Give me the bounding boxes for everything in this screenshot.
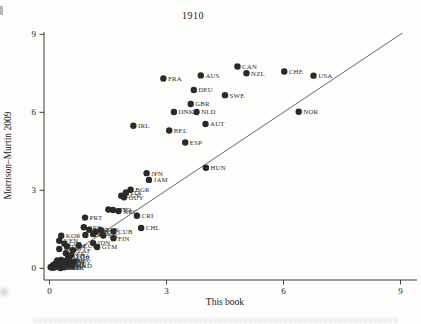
data-point-bel	[166, 127, 172, 133]
data-point-nld	[193, 109, 199, 115]
data-point-bra	[56, 246, 62, 252]
x-axis-label: This book	[125, 297, 325, 307]
y-tick-label: 0	[32, 263, 37, 273]
data-point-jpn	[143, 170, 149, 176]
point-label-nor: NOR	[303, 108, 318, 115]
x-tick-label: 9	[398, 286, 403, 296]
data-point-tto	[110, 207, 116, 213]
point-label-nzl: NZL	[251, 70, 265, 77]
point-label-cri: CRI	[141, 212, 153, 219]
point-label-gbr: GBR	[195, 100, 210, 107]
point-label-hun: HUN	[210, 164, 225, 171]
data-point-swe	[222, 92, 228, 98]
point-label-guy: GUY	[129, 194, 144, 201]
data-point-can	[234, 63, 240, 69]
data-point-guy	[121, 194, 127, 200]
data-point-khm	[57, 265, 63, 271]
x-tick-label: 0	[47, 286, 52, 296]
scan-artifact	[0, 288, 8, 296]
point-label-esp: ESP	[190, 139, 202, 146]
data-point-sen	[49, 265, 55, 271]
point-label-bel: BEL	[174, 127, 187, 134]
data-point-cub	[110, 228, 116, 234]
point-label-jam: JAM	[154, 176, 168, 183]
point-label-gtm: GTM	[102, 243, 118, 250]
data-point-esp	[182, 139, 188, 145]
data-point-nor	[296, 109, 302, 115]
scan-artifact	[0, 6, 3, 15]
data-point-deu	[191, 87, 197, 93]
data-point-nic	[100, 232, 106, 238]
point-label-aus: AUS	[205, 72, 219, 79]
data-point-hun	[203, 164, 209, 170]
x-tick-label: 6	[281, 286, 286, 296]
data-point-jam	[146, 177, 152, 183]
data-point-arg	[115, 208, 121, 214]
point-label-che: CHE	[289, 68, 303, 75]
data-point-prt	[82, 214, 88, 220]
y-tick-label: 9	[32, 29, 37, 39]
point-label-chl: CHL	[146, 224, 160, 231]
y-tick-label: 6	[32, 107, 37, 117]
point-label-irl: IRL	[138, 122, 150, 129]
data-point-chl	[138, 225, 144, 231]
data-point-cri	[134, 213, 140, 219]
cropped-caption-fragment	[34, 318, 397, 323]
point-label-usa: USA	[318, 72, 332, 79]
data-point-srb	[81, 224, 87, 230]
scatter-figure: 1910 Morrison–Murtin 2009 03690369CANNZL…	[0, 0, 421, 324]
data-point-che	[281, 68, 287, 74]
data-point-aut	[202, 121, 208, 127]
point-label-fra: FRA	[168, 75, 182, 82]
x-tick-label: 3	[164, 286, 169, 296]
y-tick-label: 3	[32, 185, 37, 195]
data-point-dnk	[171, 109, 177, 115]
point-label-deu: DEU	[198, 86, 213, 93]
data-point-fra	[160, 75, 166, 81]
data-point-nzl	[243, 70, 249, 76]
point-label-aut: AUT	[210, 120, 225, 127]
point-label-prt: PRT	[90, 214, 103, 221]
data-point-per	[82, 232, 88, 238]
point-label-fin: FIN	[118, 235, 130, 242]
point-label-khm: KHM	[65, 264, 81, 271]
point-label-dnk: DNK	[179, 108, 194, 115]
data-point-usa	[310, 72, 316, 78]
data-point-irl	[130, 123, 136, 129]
point-label-swe: SWE	[230, 92, 245, 99]
point-label-nld: NLD	[201, 108, 216, 115]
plot-svg: 03690369CANNZLCHEUSAAUSFRADEUSWEGBRDNKNL…	[0, 0, 421, 324]
data-point-gbr	[187, 101, 193, 107]
data-point-fin	[110, 235, 116, 241]
data-point-aus	[198, 72, 204, 78]
